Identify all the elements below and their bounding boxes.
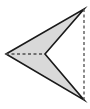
geometry-figure-svg: Concave arrowhead (dart) polygon with da… [0, 0, 90, 109]
geometry-figure-container: Concave arrowhead (dart) polygon with da… [0, 0, 90, 109]
